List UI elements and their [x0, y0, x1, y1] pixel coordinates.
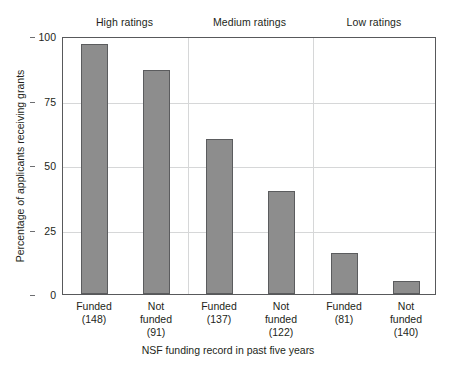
group-header-high: High ratings [62, 16, 187, 28]
bar-medium-not-funded [268, 191, 295, 294]
group-header-medium: Medium ratings [187, 16, 312, 28]
group-header-low: Low ratings [312, 16, 436, 28]
y-axis-title: Percentage of applicants receiving grant… [12, 37, 28, 295]
x-tick-label-medium-not-funded: Not funded (122) [248, 300, 314, 339]
y-tick-label-100: 100 [32, 32, 56, 43]
bar-high-not-funded [143, 70, 170, 295]
x-tick-label-low-not-funded: Not funded (140) [373, 300, 439, 339]
y-tick-mark-50 [30, 166, 35, 167]
y-tick-label-50: 50 [32, 161, 56, 172]
bar-low-funded [331, 253, 358, 294]
x-axis-title: NSF funding record in past five years [0, 344, 456, 356]
y-tick-label-25: 25 [32, 225, 56, 236]
plot-area [62, 37, 436, 295]
group-separator-1 [188, 38, 189, 294]
group-separator-2 [313, 38, 314, 294]
bar-medium-funded [206, 139, 233, 294]
y-tick-label-0: 0 [32, 290, 56, 301]
x-tick-label-medium-funded: Funded (137) [186, 300, 252, 326]
x-tick-label-high-funded: Funded (148) [61, 300, 127, 326]
bar-low-not-funded [393, 281, 420, 294]
gridline-75 [63, 103, 435, 104]
y-tick-mark-100 [30, 37, 35, 38]
bar-chart-figure: High ratings Medium ratings Low ratings … [0, 0, 456, 365]
y-tick-label-75: 75 [32, 96, 56, 107]
gridline-25 [63, 232, 435, 233]
y-axis-ticks: 100 75 50 25 0 [30, 0, 56, 365]
bar-high-funded [81, 44, 108, 294]
x-tick-label-low-funded: Funded (81) [311, 300, 377, 326]
gridline-50 [63, 167, 435, 168]
y-tick-mark-25 [30, 231, 35, 232]
y-tick-mark-75 [30, 102, 35, 103]
x-tick-label-high-not-funded: Not funded (91) [123, 300, 189, 339]
y-tick-mark-0 [30, 295, 35, 296]
